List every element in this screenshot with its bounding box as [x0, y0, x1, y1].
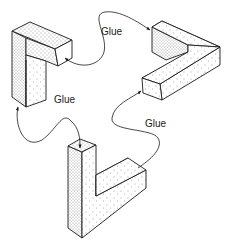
piece-a-left-face	[12, 31, 26, 107]
glue-assembly-diagram: Glue Glue Glue	[0, 0, 234, 244]
piece-c-front-face	[82, 145, 146, 238]
glue-label-top: Glue	[101, 26, 123, 37]
piece-c-block	[68, 139, 146, 238]
glue-connector-left	[17, 107, 80, 148]
glue-label-right: Glue	[145, 118, 167, 129]
piece-c-left-face	[68, 146, 82, 238]
piece-b-block	[142, 21, 220, 100]
glue-connector-right	[112, 91, 160, 168]
glue-connector-top	[65, 12, 150, 65]
piece-a-leg-front-face	[26, 55, 46, 107]
glue-label-left: Glue	[54, 94, 76, 105]
